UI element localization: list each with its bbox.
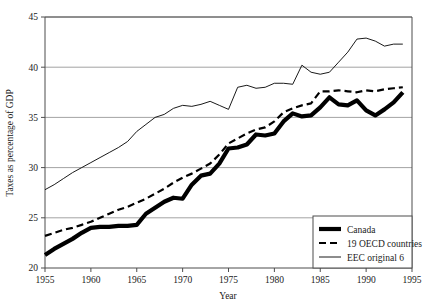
y-tick-label: 30: [29, 163, 39, 173]
y-axis-title: Taxes as percentage of GDP: [5, 89, 15, 197]
y-tick-label: 25: [29, 213, 39, 223]
y-tick-label: 45: [29, 12, 39, 22]
x-tick-label: 1970: [173, 275, 192, 285]
x-tick-label: 1990: [357, 275, 376, 285]
tax-gdp-line-chart: 202530354045 195519601965197019751980198…: [0, 0, 432, 308]
chart-figure: 202530354045 195519601965197019751980198…: [0, 0, 432, 308]
legend-label-oecd: 19 OECD countries: [347, 239, 422, 249]
x-tick-label: 1965: [127, 275, 146, 285]
x-tick-label: 1975: [219, 275, 238, 285]
x-axis-title: Year: [219, 291, 237, 301]
chart-legend: Canada 19 OECD countries EEC original 6: [313, 216, 422, 268]
x-tick-label: 1985: [311, 275, 330, 285]
y-tick-label: 20: [29, 263, 39, 273]
y-tick-label: 40: [29, 63, 39, 73]
x-tick-label: 1960: [81, 275, 100, 285]
legend-label-eec: EEC original 6: [347, 253, 404, 263]
legend-label-canada: Canada: [347, 225, 376, 235]
x-tick-label: 1980: [265, 275, 284, 285]
x-tick-label: 1955: [36, 275, 55, 285]
y-tick-label: 35: [29, 113, 39, 123]
x-tick-label: 1995: [403, 275, 422, 285]
